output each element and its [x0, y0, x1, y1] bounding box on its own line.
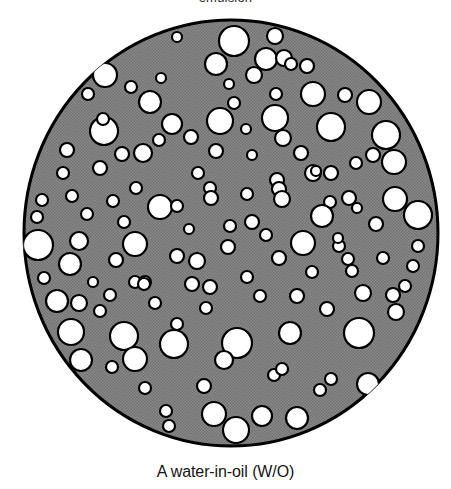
water-droplet [382, 150, 406, 174]
water-droplet [82, 88, 94, 100]
water-droplet [93, 63, 117, 87]
water-droplet [149, 297, 161, 309]
water-droplet [241, 271, 253, 283]
water-droplet [58, 319, 84, 345]
water-droplet [189, 253, 205, 269]
water-droplet [160, 405, 172, 417]
water-droplet [274, 191, 290, 207]
water-droplet [228, 97, 240, 109]
water-droplet [163, 420, 175, 432]
water-droplet [139, 382, 151, 394]
water-droplet [123, 232, 147, 256]
water-droplet [407, 260, 419, 272]
water-droplet [162, 114, 182, 134]
water-droplet [317, 113, 345, 141]
water-droplet [134, 144, 152, 162]
water-droplet [156, 73, 166, 83]
water-droplet [275, 130, 291, 146]
water-droplet [247, 150, 257, 160]
water-droplet [224, 79, 234, 89]
water-droplet [333, 233, 343, 243]
water-droplet [115, 147, 129, 161]
water-droplet [338, 88, 352, 102]
water-droplet [93, 161, 107, 175]
water-droplet [320, 302, 334, 316]
water-droplet [404, 201, 432, 229]
water-droplet [130, 182, 142, 194]
water-droplet [355, 285, 371, 301]
water-droplet [267, 28, 283, 44]
water-droplet [203, 280, 217, 294]
water-droplet [107, 195, 119, 207]
water-droplet [223, 417, 249, 443]
water-droplet [125, 81, 137, 93]
water-droplet [171, 200, 183, 212]
water-droplet [294, 146, 308, 160]
water-droplet [185, 277, 199, 291]
water-droplet [204, 191, 218, 205]
water-droplet [94, 305, 106, 317]
water-droplet [262, 105, 288, 131]
water-droplet [399, 280, 411, 292]
water-droplet [383, 187, 407, 211]
water-droplet [81, 208, 93, 220]
water-droplet [357, 90, 381, 114]
water-droplet [224, 220, 236, 232]
water-droplet [209, 144, 223, 158]
water-droplet [342, 253, 354, 265]
water-droplet [412, 240, 424, 252]
water-droplet [344, 318, 374, 348]
water-droplet [254, 290, 266, 302]
water-droplet [221, 240, 235, 254]
water-droplet [314, 384, 326, 396]
water-droplet [184, 130, 198, 144]
water-droplet [386, 288, 400, 302]
water-droplet [36, 194, 48, 206]
water-droplet [300, 59, 314, 73]
water-droplet [88, 277, 98, 287]
water-droplet [205, 53, 227, 75]
water-droplet [202, 402, 226, 426]
water-droplet [246, 67, 262, 83]
water-droplet [272, 251, 286, 265]
water-droplet [109, 253, 123, 267]
water-droplet [301, 82, 325, 106]
water-droplet [291, 231, 315, 255]
water-droplet [290, 289, 304, 303]
water-droplet [279, 322, 301, 344]
water-droplet [171, 318, 183, 330]
water-droplet [153, 134, 165, 146]
water-droplet [60, 143, 74, 157]
water-droplet [200, 302, 212, 314]
water-droplet [306, 266, 318, 278]
water-droplet [311, 205, 333, 227]
water-droplet [148, 195, 172, 219]
water-droplet [255, 48, 277, 70]
water-droplet [71, 295, 87, 311]
water-droplet [346, 265, 358, 277]
water-droplet [23, 230, 53, 260]
water-droplet [388, 304, 404, 320]
figure-caption: A water-in-oil (W/O) [0, 462, 451, 482]
figure-top-label: emulsion [0, 0, 451, 5]
water-droplet [325, 373, 337, 385]
water-droplet [270, 88, 282, 100]
water-droplet [357, 373, 379, 395]
water-droplet [276, 363, 288, 375]
water-droplet [207, 108, 233, 134]
water-droplet [219, 26, 249, 56]
emulsion-diagram-svg [21, 17, 441, 449]
water-droplet [38, 272, 50, 284]
water-droplet [260, 229, 272, 241]
water-droplet [285, 58, 297, 70]
water-droplet [311, 166, 321, 176]
water-droplet [215, 351, 233, 369]
water-droplet [170, 249, 184, 263]
water-droplet [106, 361, 118, 373]
water-droplet [46, 290, 68, 312]
water-droplet [324, 166, 338, 180]
water-droplet [369, 217, 383, 231]
water-droplet [57, 167, 69, 179]
water-droplet [138, 278, 150, 290]
water-droplet [70, 349, 92, 371]
